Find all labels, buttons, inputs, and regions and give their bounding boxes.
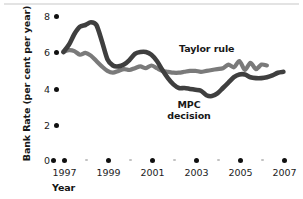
series-line-taylor-rule <box>63 50 267 73</box>
plot-area <box>0 0 303 199</box>
chart-figure: Bank Rate (per cent per year) 8 6 4 2 0 … <box>0 0 303 199</box>
